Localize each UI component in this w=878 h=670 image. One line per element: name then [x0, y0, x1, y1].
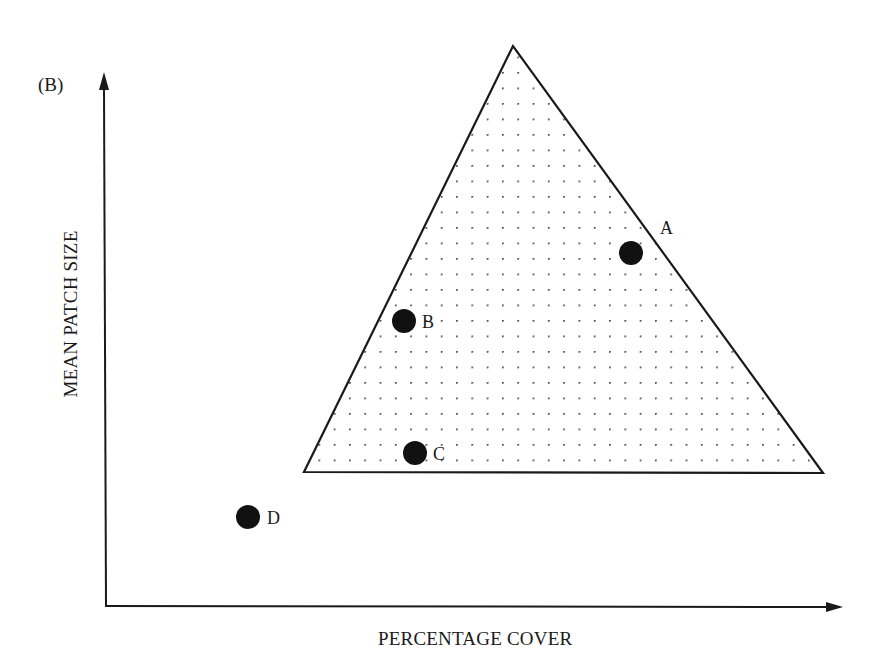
point-d-marker	[236, 505, 260, 529]
point-c-label: C	[433, 444, 445, 465]
y-axis	[99, 72, 109, 606]
point-b-marker	[392, 309, 416, 333]
point-a-marker	[619, 241, 643, 265]
feasible-region-triangle	[304, 46, 823, 473]
point-d-label: D	[267, 508, 280, 529]
diagram-canvas	[0, 0, 878, 670]
y-axis-arrow-icon	[99, 72, 109, 90]
y-axis-label: MEAN PATCH SIZE	[60, 231, 82, 398]
x-axis	[105, 602, 843, 612]
point-b-label: B	[422, 312, 434, 333]
panel-label: (B)	[38, 74, 63, 96]
point-c-marker	[403, 441, 427, 465]
x-axis-label: PERCENTAGE COVER	[378, 628, 572, 650]
point-a-label: A	[660, 218, 673, 239]
x-axis-arrow-icon	[826, 602, 843, 612]
